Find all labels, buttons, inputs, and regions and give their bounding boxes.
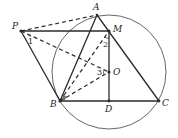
point-C xyxy=(158,100,161,103)
label-angle-3: 3 xyxy=(97,68,102,77)
label-P: P xyxy=(11,21,19,31)
point-P xyxy=(19,29,22,32)
point-A xyxy=(96,14,99,17)
label-B: B xyxy=(49,99,57,109)
point-D xyxy=(108,100,111,103)
label-angle-1: 1 xyxy=(28,37,33,46)
angle-3-arc xyxy=(104,70,105,75)
label-M: M xyxy=(112,24,123,34)
label-angle-2: 2 xyxy=(103,40,108,49)
geometry-diagram: A M P O B D C 1 2 3 xyxy=(0,0,178,138)
label-A: A xyxy=(92,2,100,12)
label-C: C xyxy=(162,98,169,108)
segment-BM xyxy=(60,31,109,101)
segment-PO xyxy=(21,31,109,72)
point-M xyxy=(107,29,110,32)
label-D: D xyxy=(104,104,112,114)
segment-PA xyxy=(21,15,97,31)
point-O xyxy=(107,70,110,73)
label-O: O xyxy=(113,67,121,77)
point-B xyxy=(58,99,61,102)
segment-AC xyxy=(97,15,159,101)
segment-PB xyxy=(21,31,60,101)
